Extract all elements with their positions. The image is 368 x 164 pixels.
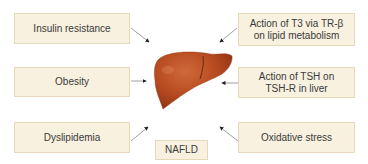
factor-label: Dyslipidemia xyxy=(44,132,101,144)
arrow-insulin xyxy=(131,28,149,42)
factor-oxidative-stress: Oxidative stress xyxy=(238,122,355,153)
arrow-t3 xyxy=(220,28,237,42)
factor-label: Insulin resistance xyxy=(33,23,110,35)
factor-insulin-resistance: Insulin resistance xyxy=(14,13,130,44)
nafld-label-box: NAFLD xyxy=(155,140,208,160)
factor-tsh-action: Action of TSH on TSH-R in liver xyxy=(238,67,355,98)
factor-label-line2: TSH-R in liver xyxy=(265,83,327,95)
factor-label-line2: on lipid metabolism xyxy=(254,30,340,42)
nafld-label: NAFLD xyxy=(165,144,198,156)
factor-label-line1: Action of TSH on xyxy=(259,71,334,83)
factor-label-line1: Action of T3 via TR-β xyxy=(250,18,344,30)
liver-icon xyxy=(154,52,232,109)
arrow-dyslipidemia xyxy=(131,127,148,141)
factor-label: Oxidative stress xyxy=(261,132,332,144)
factor-label: Obesity xyxy=(55,76,89,88)
factor-t3-action: Action of T3 via TR-β on lipid metabolis… xyxy=(238,13,355,46)
factor-obesity: Obesity xyxy=(14,67,130,97)
arrow-oxidative xyxy=(220,127,238,141)
factor-dyslipidemia: Dyslipidemia xyxy=(14,122,130,153)
